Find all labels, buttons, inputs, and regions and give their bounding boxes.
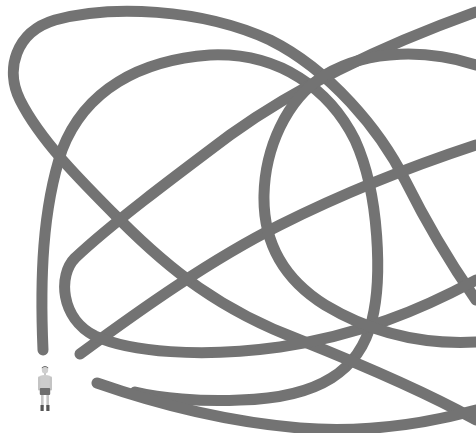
standing-man-figure [38, 366, 52, 411]
man-boot-left [41, 405, 44, 411]
man-arm-left [38, 377, 40, 391]
tangled-line-illustration [0, 0, 476, 433]
man-torso [40, 375, 51, 390]
man-shorts [40, 388, 50, 395]
man-boot-right [46, 405, 49, 411]
man-arm-right [50, 377, 52, 391]
man-neck [44, 373, 46, 375]
